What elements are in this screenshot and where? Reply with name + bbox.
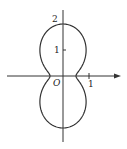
x-axis-arrow-icon [114, 74, 121, 79]
origin-label: O [53, 79, 60, 88]
x-tick-label-1: 1 [88, 80, 94, 89]
y-tick-label-2: 2 [52, 15, 58, 24]
y-tick-label-1: 1 [54, 46, 60, 55]
polar-diagram [0, 0, 127, 149]
